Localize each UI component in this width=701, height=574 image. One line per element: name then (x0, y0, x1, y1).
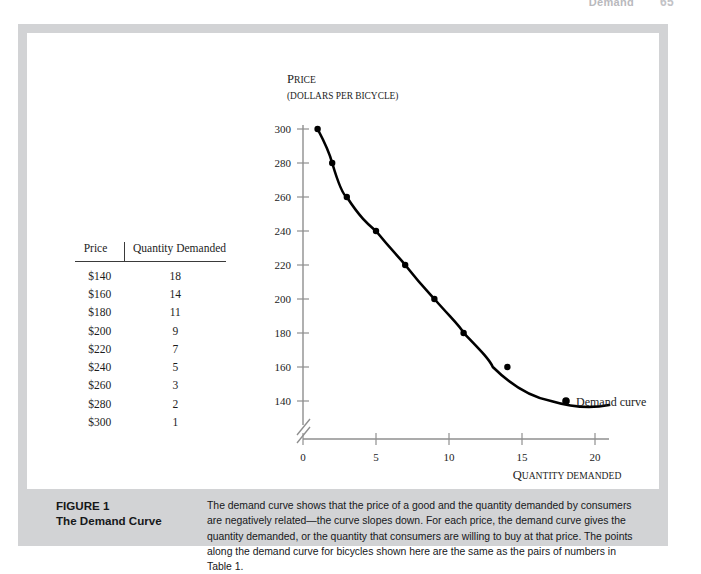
table-row: $300 1 (75, 414, 226, 432)
x-tick-label: 10 (444, 451, 456, 463)
cell-price: $260 (75, 377, 125, 395)
page-header-chapter-label: Demand (589, 0, 634, 8)
y-tick-label: 260 (275, 191, 292, 203)
cell-price: $220 (75, 341, 125, 359)
y-tick-label: 300 (275, 123, 292, 135)
y-tick-label: 280 (275, 157, 292, 169)
table-body: $140 18 $160 14 $180 11 $200 9 (75, 262, 226, 432)
cell-price: $180 (75, 304, 125, 322)
figure-number: FIGURE 1 (56, 498, 207, 513)
demand-curve-label: Demand curve (576, 395, 646, 409)
figure-caption: FIGURE 1 The Demand Curve The demand cur… (27, 489, 659, 546)
x-tick-label: 15 (517, 451, 529, 463)
demand-curve-path (318, 129, 609, 407)
y-tick-label: 200 (275, 293, 292, 305)
data-point (402, 262, 408, 268)
y-tick-label: 140 (275, 395, 292, 407)
demand-curve-chart: PRICE (DOLLARS PER BICYCLE) (249, 47, 649, 487)
cell-quantity: 9 (125, 323, 226, 341)
y-axis-title-main: PRICE (287, 72, 316, 86)
data-point (344, 194, 350, 200)
x-tick-label: 20 (590, 451, 602, 463)
table-row: $180 11 (75, 304, 226, 322)
data-point (314, 126, 320, 132)
data-point (431, 296, 437, 302)
cell-quantity: 11 (125, 304, 226, 322)
cell-price: $300 (75, 414, 125, 432)
table-header-row: Price Quantity Demanded (75, 242, 226, 261)
table-header-quantity: Quantity Demanded (125, 242, 226, 261)
cell-quantity: 2 (125, 395, 226, 413)
cell-quantity: 14 (125, 286, 226, 304)
table-row: $240 5 (75, 359, 226, 377)
y-tick-label: 240 (275, 225, 292, 237)
data-point (373, 228, 379, 234)
table-row: $280 2 (75, 395, 226, 413)
table-row: $160 14 (75, 286, 226, 304)
table-row: $140 18 (75, 262, 226, 286)
data-point (504, 364, 510, 370)
cell-quantity: 18 (125, 262, 226, 286)
cell-price: $200 (75, 323, 125, 341)
x-tick-label: 5 (373, 451, 379, 463)
cell-price: $160 (75, 286, 125, 304)
table-row: $260 3 (75, 377, 226, 395)
cell-quantity: 5 (125, 359, 226, 377)
cell-price: $240 (75, 359, 125, 377)
data-points (314, 126, 569, 405)
data-point-endpoint (562, 397, 570, 405)
y-tick-label: 220 (275, 259, 292, 271)
demand-schedule-table: Price Quantity Demanded $140 18 $160 14 (75, 242, 226, 432)
y-tick-label: 180 (275, 327, 292, 339)
figure-title: The Demand Curve (56, 513, 207, 528)
table-row: $200 9 (75, 323, 226, 341)
y-tick-label: 160 (275, 361, 292, 373)
data-point (329, 160, 335, 166)
table-header-price: Price (75, 242, 125, 261)
data-point (460, 330, 466, 336)
figure-frame: Price Quantity Demanded $140 18 $160 14 (18, 24, 668, 546)
chart-svg: PRICE (DOLLARS PER BICYCLE) (249, 47, 649, 487)
cell-quantity: 1 (125, 414, 226, 432)
page-header: Demand 65 (0, 0, 701, 11)
cell-quantity: 7 (125, 341, 226, 359)
figure-caption-title: FIGURE 1 The Demand Curve (27, 498, 207, 529)
figure-panel: Price Quantity Demanded $140 18 $160 14 (27, 33, 659, 489)
table-row: $220 7 (75, 341, 226, 359)
x-axis-title-main: QUANTITY DEMANDED (513, 468, 622, 482)
cell-price: $140 (75, 262, 125, 286)
figure-caption-body: The demand curve shows that the price of… (207, 498, 659, 574)
cell-price: $280 (75, 395, 125, 413)
y-axis-title-sub: (DOLLARS PER BICYCLE) (287, 91, 398, 102)
cell-quantity: 3 (125, 377, 226, 395)
page-header-page-number: 65 (660, 0, 674, 9)
x-tick-label: 0 (300, 451, 306, 463)
